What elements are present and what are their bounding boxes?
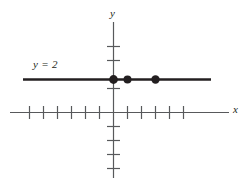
y-axis-label: y <box>110 8 115 19</box>
point-1-2 <box>124 76 132 84</box>
graph-canvas <box>0 0 251 185</box>
x-axis-label: x <box>233 104 238 115</box>
point-3-2 <box>151 75 159 83</box>
coordinate-plane-figure: y x y = 2 <box>0 0 251 185</box>
line-equation-label: y = 2 <box>33 59 58 70</box>
point-0-2 <box>109 75 118 84</box>
